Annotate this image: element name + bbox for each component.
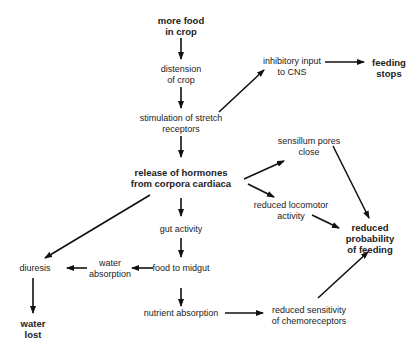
node-label: release of hormones (131, 167, 231, 178)
node-reduced-locomotor-activity: reduced locomotor activity (254, 200, 329, 222)
node-feeding-stops: feeding stops (372, 57, 406, 79)
node-label: reduced (346, 222, 395, 233)
node-diuresis: diuresis (19, 263, 50, 274)
node-label: stops (372, 68, 406, 79)
node-label: food to midgut (152, 263, 209, 274)
node-label: stimulation of stretch (140, 113, 223, 124)
node-label: of feeding (346, 244, 395, 255)
node-label: activity (254, 211, 329, 222)
node-label: absorption (89, 269, 131, 280)
node-inhibitory-input-to-cns: inhibitory input to CNS (263, 56, 321, 78)
node-label: water (21, 318, 46, 329)
node-label: reduced sensitivity (272, 305, 347, 316)
node-label: sensillum pores (278, 136, 341, 147)
node-label: inhibitory input (263, 56, 321, 67)
node-water-absorption: water absorption (89, 258, 131, 280)
node-label: lost (21, 329, 46, 340)
node-reduced-probability-of-feeding: reduced probability of feeding (346, 222, 395, 255)
node-water-lost: water lost (21, 318, 46, 340)
node-label: to CNS (263, 67, 321, 78)
node-food-to-midgut: food to midgut (152, 263, 209, 274)
node-label: gut activity (160, 224, 203, 235)
node-label: diuresis (19, 263, 50, 274)
node-more-food-in-crop: more food in crop (158, 15, 204, 37)
node-release-of-hormones: release of hormones from corpora cardiac… (131, 167, 231, 189)
node-label: distension (161, 64, 202, 75)
node-label: of chemoreceptors (272, 316, 347, 327)
node-label: receptors (140, 124, 223, 135)
node-distension-of-crop: distension of crop (161, 64, 202, 86)
node-label: nutrient absorption (144, 308, 219, 319)
node-sensillum-pores-close: sensillum pores close (278, 136, 341, 158)
node-label: close (278, 147, 341, 158)
node-label: reduced locomotor (254, 200, 329, 211)
node-label: from corpora cardiaca (131, 178, 231, 189)
node-label: feeding (372, 57, 406, 68)
node-stimulation-of-stretch-receptors: stimulation of stretch receptors (140, 113, 223, 135)
node-label: water (89, 258, 131, 269)
node-label: in crop (158, 26, 204, 37)
node-reduced-sensitivity-of-chemoreceptors: reduced sensitivity of chemoreceptors (272, 305, 347, 327)
node-nutrient-absorption: nutrient absorption (144, 308, 219, 319)
feeding-regulation-diagram: more food in crop distension of crop sti… (0, 0, 420, 353)
node-label: of crop (161, 75, 202, 86)
node-label: more food (158, 15, 204, 26)
node-label: probability (346, 233, 395, 244)
node-gut-activity: gut activity (160, 224, 203, 235)
